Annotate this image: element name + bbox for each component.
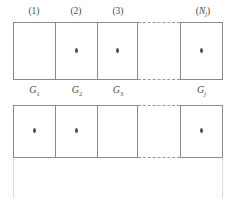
diagram-canvas: (1) (2) (3) (Nj) G1 G2 G3 Gj bbox=[0, 0, 236, 200]
cell-row2-col2 bbox=[56, 105, 98, 158]
column-label-1: (1) bbox=[13, 6, 55, 17]
cell-row1-col3 bbox=[98, 22, 138, 80]
ellipsis-dash-row2-top bbox=[138, 105, 180, 106]
column-label-nj-close: ) bbox=[207, 6, 210, 16]
cell-marker-dot bbox=[200, 48, 203, 53]
cell-row1-col1 bbox=[13, 22, 56, 80]
column-label-nj: (Nj) bbox=[178, 6, 228, 19]
cell-marker-dot bbox=[75, 128, 78, 133]
group-label-1-sub: 1 bbox=[36, 90, 39, 97]
group-label-3: G3 bbox=[98, 84, 138, 99]
cell-row2-col1 bbox=[13, 105, 56, 158]
drop-line-right bbox=[222, 159, 223, 197]
group-label-2: G2 bbox=[56, 84, 98, 99]
cell-row1-col2 bbox=[56, 22, 98, 80]
cell-row2-col3 bbox=[98, 105, 138, 158]
group-label-j: Gj bbox=[180, 84, 223, 99]
group-label-2-base: G bbox=[72, 84, 79, 95]
ellipsis-dash-row1-top bbox=[138, 22, 180, 23]
group-label-1: G1 bbox=[13, 84, 56, 99]
group-label-j-sub: j bbox=[204, 90, 206, 97]
group-label-3-base: G bbox=[113, 84, 120, 95]
cell-marker-dot bbox=[200, 128, 203, 133]
cell-row1-coln bbox=[180, 22, 223, 80]
cell-marker-dot bbox=[33, 128, 36, 133]
cell-row2-coln bbox=[180, 105, 223, 158]
cell-marker-dot bbox=[116, 48, 119, 53]
ellipsis-dash-row2-bottom bbox=[138, 157, 180, 158]
column-label-3: (3) bbox=[97, 6, 139, 17]
cell-marker-dot bbox=[75, 48, 78, 53]
drop-line-left bbox=[13, 159, 14, 197]
group-label-3-sub: 3 bbox=[120, 90, 123, 97]
ellipsis-dash-row1-bottom bbox=[138, 79, 180, 80]
group-label-2-sub: 2 bbox=[79, 90, 82, 97]
column-label-2: (2) bbox=[55, 6, 97, 17]
